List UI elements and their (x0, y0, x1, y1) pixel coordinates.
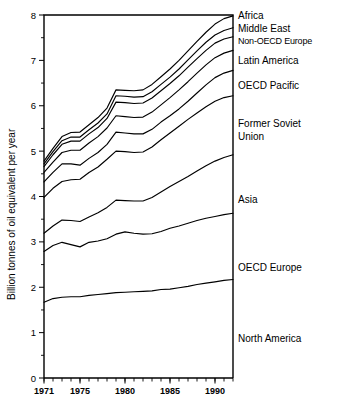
legend-label-middle-east: Middle East (238, 23, 290, 34)
plot-frame (44, 15, 233, 378)
series-line-africa (44, 16, 233, 161)
series-line-middle-east (44, 28, 233, 164)
legend-label-latin-america: Latin America (238, 55, 299, 66)
series-line-north-america (44, 280, 233, 303)
x-tick-label: 1985 (160, 386, 180, 396)
series-line-oecd-europe (44, 213, 233, 251)
series-line-latin-america (44, 50, 233, 172)
y-tick-label: 8 (31, 10, 36, 21)
y-tick-label: 7 (31, 55, 36, 66)
y-tick-label: 2 (31, 282, 36, 293)
y-axis-label: Billion tonnes of oil equivalent per yea… (6, 128, 17, 300)
legend-label-union: Union (238, 131, 264, 142)
x-tick-label: 1971 (34, 386, 54, 396)
series-line-asia (44, 155, 233, 234)
y-axis-tick-labels: 012345678 (31, 10, 36, 384)
y-tick-label: 0 (31, 373, 36, 384)
x-axis-tick-labels: 19711975198019851990 (34, 386, 225, 396)
x-axis-major-ticks (44, 378, 215, 384)
x-tick-label: 1980 (115, 386, 135, 396)
x-tick-label: 1990 (205, 386, 225, 396)
series-line-former-soviet-union (44, 96, 233, 198)
y-tick-label: 4 (31, 191, 36, 202)
legend-label-africa: Africa (238, 10, 264, 21)
energy-consumption-chart: Billion tonnes of oil equivalent per yea… (0, 0, 339, 420)
legend-label-non-oecd-europe: Non-OECD Europe (238, 36, 312, 47)
legend-label-north-america: North America (238, 333, 301, 344)
x-tick-label: 1975 (70, 386, 90, 396)
legend-label-former-soviet: Former Soviet (238, 118, 301, 129)
series-lines (44, 16, 233, 302)
y-tick-label: 1 (31, 327, 36, 338)
legend-label-asia: Asia (238, 194, 257, 205)
y-axis-major-ticks (39, 15, 44, 378)
legend-label-oecd-europe: OECD Europe (238, 262, 302, 273)
series-line-non-oecd-europe (44, 37, 233, 167)
y-tick-label: 3 (31, 236, 36, 247)
y-tick-label: 6 (31, 100, 36, 111)
y-tick-label: 5 (31, 146, 36, 157)
legend-label-oecd-pacific: OECD Pacific (238, 80, 299, 91)
series-line-oecd-pacific (44, 70, 233, 182)
